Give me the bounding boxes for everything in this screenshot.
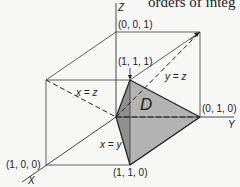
point-label-001: (0, 0, 1): [118, 20, 152, 30]
point-label-100: (1, 0, 0): [6, 160, 40, 170]
y-axis-label: Y: [228, 120, 235, 130]
z-axis-label: Z: [118, 3, 124, 13]
plane-label-x-equals-z: x = z: [76, 88, 97, 98]
tetrahedron-diagram: orders of integ: [0, 0, 240, 187]
point-label-111: (1, 1, 1): [118, 57, 152, 67]
plane-label-y-equals-z: y = z: [165, 72, 186, 82]
region-label-d: D: [140, 95, 152, 115]
x-equals-z-dash: [46, 80, 116, 117]
point-label-010: (0, 1, 0): [202, 104, 236, 114]
plane-label-x-equals-y: x = y: [100, 140, 121, 150]
x-axis-label: X: [28, 176, 35, 186]
point-label-110: (1, 1, 0): [113, 168, 147, 178]
